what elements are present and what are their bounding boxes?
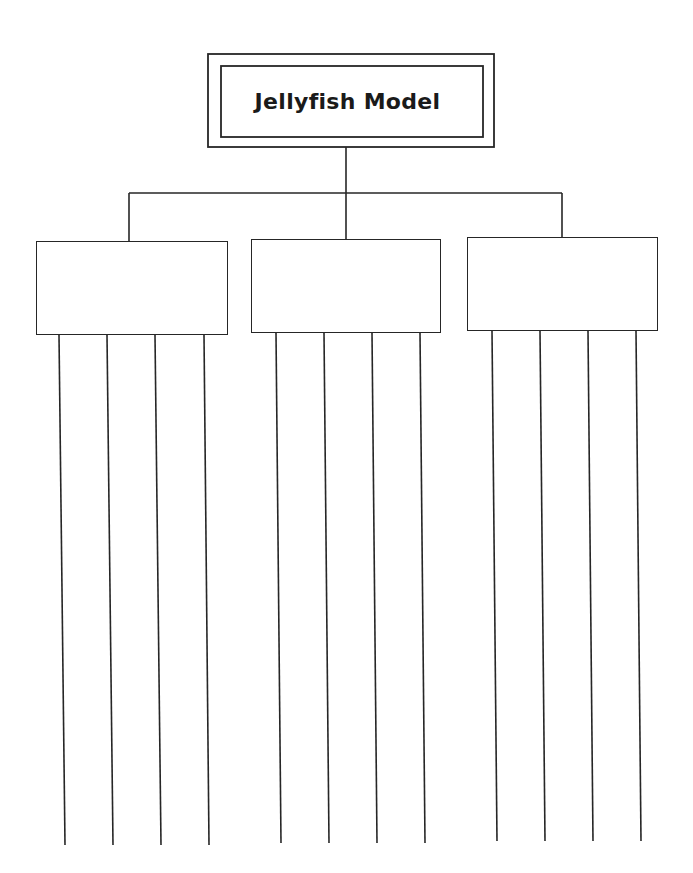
tentacle-line-right-4 bbox=[636, 331, 641, 841]
tentacle-line-right-1 bbox=[492, 331, 497, 841]
category-label-middle bbox=[252, 240, 440, 332]
tentacle-line-left-1 bbox=[59, 335, 65, 845]
tentacle-line-middle-1 bbox=[276, 333, 281, 843]
tentacle-line-right-3 bbox=[588, 331, 593, 841]
tentacle-lines bbox=[59, 331, 641, 845]
tentacle-line-left-4 bbox=[204, 335, 209, 845]
tentacle-line-middle-2 bbox=[324, 333, 329, 843]
tentacle-line-middle-4 bbox=[420, 333, 425, 843]
category-label-left bbox=[37, 242, 227, 334]
tentacle-line-left-3 bbox=[155, 335, 161, 845]
category-box-left[interactable] bbox=[36, 241, 228, 335]
tentacle-line-middle-3 bbox=[372, 333, 377, 843]
category-label-right bbox=[468, 238, 657, 330]
category-box-middle[interactable] bbox=[251, 239, 441, 333]
connector-lines bbox=[129, 147, 562, 241]
category-box-right[interactable] bbox=[467, 237, 658, 331]
diagram-title: Jellyfish Model bbox=[222, 66, 483, 137]
tentacle-line-right-2 bbox=[540, 331, 545, 841]
tentacle-line-left-2 bbox=[107, 335, 113, 845]
